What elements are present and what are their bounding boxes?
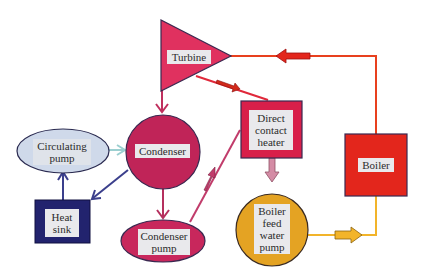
heat-sink-label-line-1: Heat [47, 211, 77, 223]
circulating-pump-label-line-1: Circulating [35, 140, 89, 152]
bfwp-label-line-3: water [255, 229, 289, 241]
condenser-pump-label: Condenser pump [138, 229, 190, 255]
heater-label-line-2: contact [251, 124, 291, 136]
heat-sink-label: Heat sink [45, 209, 79, 237]
edge-condenser-to-heatsink [93, 170, 128, 198]
arrow-bfwp-to-boiler-icon [335, 227, 362, 243]
arrow-boiler-to-turbine-icon [276, 49, 310, 63]
bfwp-label-line-2: feed [255, 217, 289, 229]
bfwp-label-line-4: pump [255, 241, 289, 253]
arrow-turbine-to-heater-icon [216, 80, 240, 92]
edge-bfwp-to-boiler [307, 196, 376, 235]
direct-contact-heater-label: Direct contact heater [249, 110, 293, 150]
arrow-heater-to-bfwp-icon [265, 158, 279, 182]
condenser-pump-label-line-1: Condenser [140, 230, 188, 242]
heat-sink-label-line-2: sink [47, 223, 77, 235]
heater-label-line-3: heater [251, 136, 291, 148]
heater-label-line-1: Direct [251, 112, 291, 124]
turbine-label: Turbine [167, 50, 211, 64]
condenser-pump-label-line-2: pump [140, 242, 188, 254]
circulating-pump-label-line-2: pump [35, 152, 89, 164]
boiler-label: Boiler [358, 158, 394, 172]
circulating-pump-label: Circulating pump [33, 139, 91, 165]
bfwp-label-line-1: Boiler [255, 205, 289, 217]
boiler-feed-water-pump-label: Boiler feed water pump [254, 204, 290, 254]
condenser-label: Condenser [135, 144, 190, 158]
